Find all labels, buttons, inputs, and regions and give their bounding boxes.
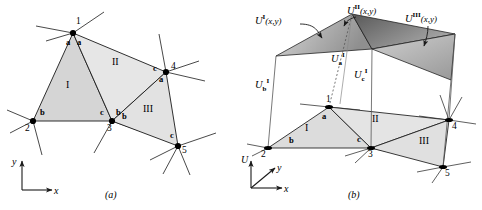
panel-a-local-label-II-b: b xyxy=(116,108,121,117)
panel-b-node-label-3: 3 xyxy=(368,150,373,160)
panel-a-node-5 xyxy=(175,143,181,149)
panel-b-element-label-III: III xyxy=(419,136,429,146)
surface-function-label-III: UIII(x,y) xyxy=(405,12,437,24)
panel-b-node-label-2: 2 xyxy=(261,150,266,160)
surface-function-label-II: UII(x,y) xyxy=(347,4,376,16)
panel-b-node-label-5: 5 xyxy=(445,169,450,179)
panel-b-node-label-1: 1 xyxy=(326,95,331,105)
panel-a-node-label-3: 3 xyxy=(107,124,112,134)
panel-a-local-label-III-c: c xyxy=(170,131,174,140)
panel-a-local-label-II-a: a xyxy=(77,38,81,47)
panel-a-node-label-2: 2 xyxy=(25,124,30,134)
connector-node-2 xyxy=(268,56,276,148)
nodal-value-label-U-a-I: UaI xyxy=(331,52,345,67)
panel-a-x-axis-label: x xyxy=(54,186,58,196)
nodal-value-label-U-b-I: UbI xyxy=(255,78,269,93)
panel-b-element-label-I: I xyxy=(305,123,308,133)
panel-a-local-label-I-c: c xyxy=(100,108,104,117)
panel-a-node-1 xyxy=(70,30,76,36)
panel-a-node-label-5: 5 xyxy=(182,146,187,156)
panel-a-caption: (a) xyxy=(105,190,117,200)
panel-a-local-label-I-b: b xyxy=(40,108,45,117)
panel-b-group xyxy=(247,14,476,188)
panel-b-local-label-a: a xyxy=(322,112,326,121)
panel-a-node-label-1: 1 xyxy=(76,17,81,27)
panel-b-y-axis xyxy=(251,168,275,188)
panel-a-axes xyxy=(22,161,52,190)
panel-a-y-axis-label: y xyxy=(12,157,16,167)
nodal-value-label-U-c-I: UcI xyxy=(354,68,367,83)
panel-a-local-label-II-c: c xyxy=(153,64,157,73)
panel-b-node-1 xyxy=(325,105,333,109)
panel-b-x-axis-label: x xyxy=(284,184,288,194)
panel-a-node-4 xyxy=(163,69,169,75)
panel-b-element-label-II: II xyxy=(372,114,379,124)
figure-container: 1 2 3 4 5 I II III a b c a b c a b c y x… xyxy=(0,0,482,210)
panel-b-node-label-4: 4 xyxy=(452,122,457,132)
panel-a-element-label-II: II xyxy=(112,57,119,67)
panel-b-local-label-b: b xyxy=(289,136,294,145)
panel-a-local-label-III-b: b xyxy=(122,112,127,121)
panel-a-local-label-I-a: a xyxy=(66,38,70,47)
panel-a-element-label-I: I xyxy=(66,80,69,90)
panel-a-node-label-4: 4 xyxy=(171,62,176,72)
panel-a-group xyxy=(7,12,216,190)
figure-canvas xyxy=(0,0,482,210)
panel-b-caption: (b) xyxy=(348,190,360,200)
panel-b-y-axis-label: y xyxy=(277,163,281,173)
panel-a-element-label-III: III xyxy=(143,104,153,114)
panel-b-u-axis-label: U xyxy=(241,155,248,165)
panel-b-local-label-c: c xyxy=(357,135,361,144)
panel-a-local-label-III-a: a xyxy=(159,75,163,84)
panel-a-node-2 xyxy=(30,118,36,124)
surface-function-label-I: UI(x,y) xyxy=(255,14,282,26)
